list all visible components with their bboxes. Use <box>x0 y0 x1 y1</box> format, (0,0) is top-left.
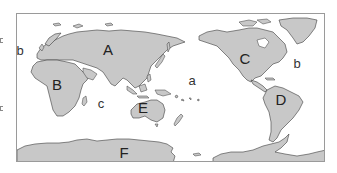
label-continent-d: D <box>276 92 287 107</box>
clipped-tick-mark <box>0 106 3 111</box>
island-novaya-zemlya <box>73 24 83 28</box>
island-cuba <box>265 78 275 80</box>
label-ocean-a: a <box>188 74 195 87</box>
arctic-archipelago <box>239 20 257 26</box>
label-continent-e: E <box>138 100 148 115</box>
label-ocean-b-west: b <box>16 44 23 57</box>
island-madagascar <box>82 96 87 106</box>
label-ocean-b-east: b <box>293 57 300 70</box>
pacific-islet <box>189 98 191 100</box>
pacific-islet <box>181 99 184 101</box>
island-new-zealand <box>174 114 183 126</box>
landmass-antarctica <box>17 139 175 162</box>
label-continent-f: F <box>119 145 128 160</box>
pacific-islet <box>197 99 199 101</box>
pacific-islet <box>175 95 178 98</box>
label-continent-a: A <box>103 42 113 57</box>
world-map-svg <box>17 14 325 162</box>
label-continent-c: C <box>240 51 251 66</box>
landmass-antarctica-east <box>213 134 325 162</box>
landmass-greenland <box>279 18 317 44</box>
label-continent-b: B <box>52 77 62 92</box>
island-severnaya <box>105 23 113 26</box>
island-svalbard <box>53 23 61 26</box>
island-new-guinea <box>155 90 171 96</box>
arctic-archipelago <box>257 19 271 24</box>
antarctic-islet <box>193 153 201 156</box>
clipped-tick-mark <box>0 38 3 43</box>
landmass-central-america <box>251 80 267 92</box>
island-tasmania <box>155 124 158 127</box>
label-ocean-c: c <box>98 97 105 110</box>
world-map-figure: A B C D E F a b c b <box>0 0 337 173</box>
map-frame: A B C D E F a b c <box>16 13 325 162</box>
